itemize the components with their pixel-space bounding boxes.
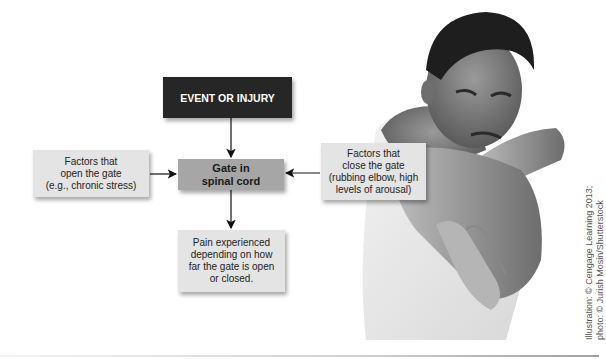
close-factors-line-2: close the gate [342,160,404,172]
gate-in-spinal-cord-box: Gate in spinal cord [178,159,284,190]
open-factors-line-3: (e.g., chronic stress) [46,180,137,192]
close-factors-line-1: Factors that [347,148,400,160]
bottom-divider [0,355,599,357]
pain-experienced-box: Pain experienced depending on how far th… [178,230,285,292]
credit-line-1: Illustration: © Cengage Learning 2013; [584,186,595,340]
event-label: EVENT OR INJURY [180,92,275,104]
event-or-injury-box: EVENT OR INJURY [163,77,292,118]
open-factors-line-1: Factors that [65,156,118,168]
open-gate-factors-box: Factors that open the gate (e.g., chroni… [33,150,149,197]
pain-line-2: depending on how [191,249,273,261]
image-credit: Illustration: © Cengage Learning 2013; p… [584,186,606,340]
pain-line-1: Pain experienced [193,237,270,249]
close-factors-line-3: (rubbing elbow, high [329,172,419,184]
pain-line-3: far the gate is open [189,261,275,273]
close-factors-line-4: levels of arousal) [336,184,412,196]
open-factors-line-2: open the gate [60,168,121,180]
gate-line-1: Gate in [212,162,249,175]
credit-line-2: photo: © Jurish Mosin/Shutterstock [595,186,606,340]
close-gate-factors-box: Factors that close the gate (rubbing elb… [321,143,426,200]
pain-line-4: or closed. [210,273,253,285]
gate-line-2: spinal cord [202,175,261,188]
